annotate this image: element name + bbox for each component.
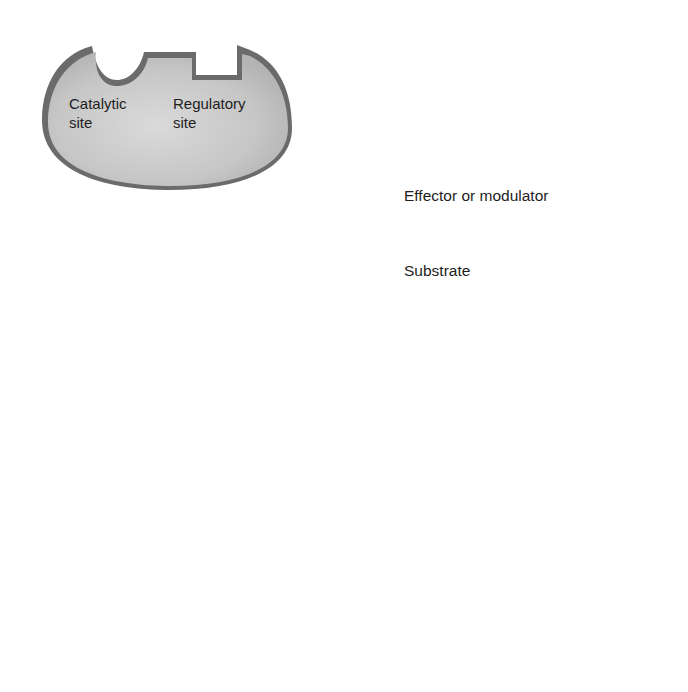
catalytic-site-label-line1: Catalytic [69,94,127,113]
catalytic-site-label-line2: site [69,113,127,132]
regulatory-site-label-line1: Regulatory [173,94,246,113]
regulatory-site-label-line2: site [173,113,246,132]
catalytic-site-label: Catalytic site [69,94,127,132]
regulatory-site-label: Regulatory site [173,94,246,132]
legend-substrate-label: Substrate [404,261,470,280]
legend-effector-label: Effector or modulator [404,186,548,205]
